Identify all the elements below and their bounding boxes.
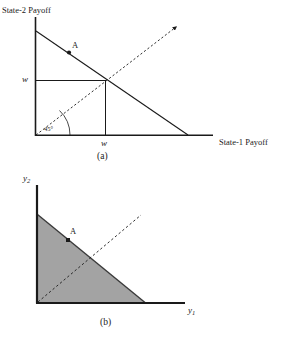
panel-b-x-axis-title-subscript: 1 bbox=[192, 309, 195, 316]
panel-a-x-tick-label-w: w bbox=[101, 139, 107, 148]
panel-b bbox=[36, 185, 185, 304]
panel-b-y-axis-title: y2 bbox=[23, 174, 30, 185]
panel-b-point-a-marker bbox=[66, 238, 70, 242]
figure-container: State-2 Payoff State-1 Payoff w w 45° A … bbox=[0, 0, 291, 340]
panel-b-x-axis-title: y1 bbox=[188, 306, 195, 317]
figure-svg bbox=[0, 0, 291, 340]
panel-a-angle-label: 45° bbox=[44, 126, 53, 133]
panel-a-angle-arc bbox=[60, 111, 71, 136]
panel-a-caption: (a) bbox=[97, 152, 108, 162]
panel-b-y-axis-title-subscript: 2 bbox=[27, 177, 30, 184]
panel-b-point-a-label: A bbox=[70, 227, 76, 236]
panel-b-caption: (b) bbox=[100, 318, 111, 328]
panel-a-x-axis-title: State-1 Payoff bbox=[219, 138, 268, 147]
panel-a-y-axis-title: State-2 Payoff bbox=[2, 6, 51, 15]
panel-a-point-a-label: A bbox=[72, 41, 78, 50]
panel-a-y-tick-label-w: w bbox=[22, 75, 28, 84]
panel-a-budget-line bbox=[36, 31, 188, 135]
panel-a-point-a-marker bbox=[67, 50, 71, 54]
panel-a bbox=[35, 17, 213, 136]
